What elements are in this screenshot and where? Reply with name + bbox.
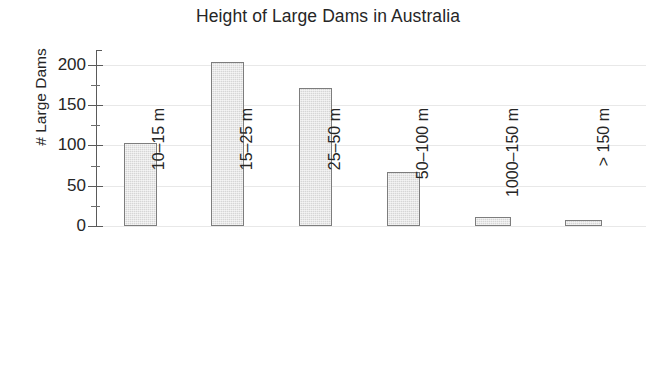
x-tick-label-1000-150m: 1000–150 m bbox=[504, 108, 522, 238]
bar-chart: Height of Large Dams in Australia # Larg… bbox=[0, 0, 656, 370]
y-tick-label-200: 200 bbox=[2, 56, 86, 73]
x-tick-label-gt-150m: > 150 m bbox=[595, 108, 613, 238]
y-tick-minor-125 bbox=[91, 125, 100, 126]
y-tick-minor-175 bbox=[91, 85, 100, 86]
y-tick-label-wrap-0: 0 bbox=[0, 217, 86, 218]
gridline-150 bbox=[97, 105, 646, 106]
x-tick-label-10-15m: 10–15 m bbox=[150, 108, 168, 238]
y-tick-major-200 bbox=[88, 65, 103, 66]
y-tick-minor-25 bbox=[91, 206, 100, 207]
y-tick-major-100 bbox=[88, 145, 103, 146]
gridline-100 bbox=[97, 145, 646, 146]
y-tick-label-wrap-100: 100 bbox=[0, 136, 86, 137]
y-tick-label-50: 50 bbox=[2, 177, 86, 194]
gridline-200 bbox=[97, 65, 646, 66]
plot-area bbox=[97, 50, 646, 226]
gridline-0 bbox=[97, 226, 646, 227]
y-tick-label-wrap-150: 150 bbox=[0, 96, 86, 97]
x-tick-label-15-25m: 15–25 m bbox=[238, 108, 256, 238]
y-tick-label-100: 100 bbox=[2, 136, 86, 153]
y-tick-major-150 bbox=[88, 105, 103, 106]
y-tick-major-0 bbox=[88, 226, 103, 227]
y-tick-label-150: 150 bbox=[2, 96, 86, 113]
chart-title: Height of Large Dams in Australia bbox=[0, 6, 656, 27]
x-tick-label-25-50m: 25–50 m bbox=[326, 108, 344, 238]
y-tick-minor-75 bbox=[91, 166, 100, 167]
y-tick-major-50 bbox=[88, 186, 103, 187]
gridline-50 bbox=[97, 186, 646, 187]
y-tick-label-wrap-200: 200 bbox=[0, 56, 86, 57]
x-tick-label-50-100m: 50–100 m bbox=[414, 108, 432, 238]
y-tick-label-wrap-50: 50 bbox=[0, 177, 86, 178]
y-tick-label-0: 0 bbox=[2, 217, 86, 234]
